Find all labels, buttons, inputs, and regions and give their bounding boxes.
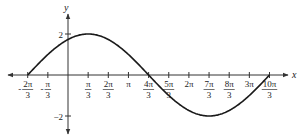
x-tick-label: π: [126, 79, 131, 89]
x-tick-label: 4π3: [143, 79, 154, 100]
svg-text:4π: 4π: [144, 79, 154, 89]
axes: x y: [8, 2, 297, 134]
x-tick-label: 2π: [184, 79, 194, 89]
x-ticks: 2π3-π3-π32π3π4π35π32π7π38π33π10π3: [18, 72, 277, 100]
svg-text:3: 3: [207, 90, 212, 100]
svg-text:3: 3: [86, 90, 91, 100]
y-tick-label: −2: [53, 112, 63, 122]
x-tick-label: 3π: [245, 79, 255, 89]
svg-text:-: -: [18, 84, 21, 94]
svg-text:3: 3: [267, 90, 272, 100]
svg-text:3: 3: [227, 90, 232, 100]
x-axis-label: x: [291, 69, 297, 80]
svg-text:2π: 2π: [104, 79, 114, 89]
x-tick-label: 5π3: [163, 79, 174, 100]
x-tick-label: π3-: [41, 79, 52, 100]
svg-text:π: π: [86, 79, 91, 89]
svg-text:3π: 3π: [245, 79, 255, 89]
svg-text:-: -: [41, 84, 44, 94]
svg-text:3: 3: [46, 90, 51, 100]
svg-text:3: 3: [106, 90, 111, 100]
svg-text:3: 3: [25, 90, 30, 100]
x-tick-label: π3: [85, 79, 92, 100]
x-tick-label: 2π3-: [18, 79, 33, 100]
x-tick-label: 2π3: [103, 79, 114, 100]
svg-text:8π: 8π: [225, 79, 235, 89]
y-axis-label: y: [63, 2, 69, 13]
svg-text:π: π: [126, 79, 131, 89]
y-tick-label: 2: [59, 30, 64, 40]
svg-text:π: π: [46, 79, 51, 89]
svg-text:2π: 2π: [23, 79, 33, 89]
x-tick-label: 7π3: [204, 79, 215, 100]
sine-graph: x y 2π3-π3-π32π3π4π35π32π7π38π33π10π3 2−…: [0, 0, 301, 139]
x-tick-label: 10π3: [262, 79, 278, 100]
svg-text:3: 3: [146, 90, 151, 100]
svg-text:5π: 5π: [164, 79, 174, 89]
svg-text:7π: 7π: [205, 79, 215, 89]
svg-text:2π: 2π: [184, 79, 194, 89]
x-tick-label: 8π3: [224, 79, 235, 100]
